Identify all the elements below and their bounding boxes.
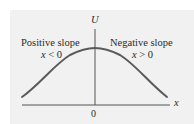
origin-tick-label: 0	[91, 108, 96, 119]
condition-var: x	[132, 49, 137, 60]
condition-val: 0	[148, 49, 153, 60]
negative-slope-label: Negative slope	[110, 37, 173, 48]
u-axis-label: U	[91, 14, 99, 25]
condition-var: x	[41, 49, 46, 60]
positive-slope-label: Positive slope	[21, 37, 80, 48]
x-axis-label: x	[174, 97, 179, 108]
condition-op: >	[139, 49, 145, 60]
positive-slope-condition: x < 0	[41, 49, 62, 60]
condition-op: <	[48, 49, 54, 60]
condition-val: 0	[57, 49, 62, 60]
negative-slope-condition: x > 0	[132, 49, 153, 60]
